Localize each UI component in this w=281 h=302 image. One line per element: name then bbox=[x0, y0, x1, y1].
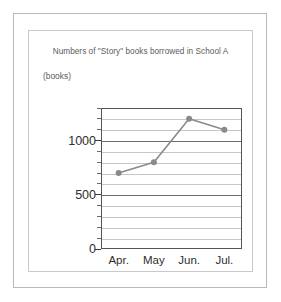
plot-wrapper: 05001000 Apr.MayJun.Jul. bbox=[42, 108, 242, 271]
inner-frame: Numbers of "Story" books borrowed in Sch… bbox=[28, 30, 253, 272]
y-axis-unit-label: (books) bbox=[43, 71, 71, 81]
x-axis-label: Apr. bbox=[108, 254, 128, 266]
data-point-marker bbox=[221, 127, 227, 133]
y-axis-label: 1000 bbox=[68, 134, 96, 148]
y-axis-label: 0 bbox=[89, 242, 96, 256]
data-series-line bbox=[101, 108, 242, 249]
x-axis-label: Jul. bbox=[215, 254, 233, 266]
data-point-marker bbox=[116, 170, 122, 176]
series-polyline bbox=[119, 119, 225, 173]
outer-frame: Numbers of "Story" books borrowed in Sch… bbox=[13, 13, 267, 288]
chart-title: Numbers of "Story" books borrowed in Sch… bbox=[29, 47, 252, 56]
data-point-marker bbox=[186, 116, 192, 122]
data-point-marker bbox=[151, 159, 157, 165]
y-axis-label: 500 bbox=[75, 188, 96, 202]
x-axis-label: Jun. bbox=[178, 254, 200, 266]
x-axis-label: May bbox=[143, 254, 165, 266]
